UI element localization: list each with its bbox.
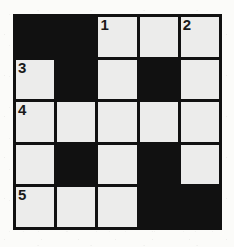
crossword-cell-open[interactable] <box>181 145 219 185</box>
cell-number: 2 <box>183 17 191 33</box>
crossword-cell-block <box>57 17 95 57</box>
crossword-cell-block <box>140 145 178 185</box>
crossword-cell-open[interactable] <box>57 187 95 227</box>
crossword-cell-open[interactable] <box>181 102 219 142</box>
crossword-cell-block <box>181 187 219 227</box>
crossword-cell-open[interactable]: 1 <box>98 17 136 57</box>
crossword-cell-block <box>57 145 95 185</box>
crossword-cell-block <box>16 17 54 57</box>
cell-number: 1 <box>100 17 108 33</box>
crossword-cell-open[interactable]: 4 <box>16 102 54 142</box>
crossword-cell-open[interactable]: 3 <box>16 60 54 100</box>
crossword-cell-open[interactable] <box>181 60 219 100</box>
crossword-cell-open[interactable] <box>98 102 136 142</box>
crossword-cell-open[interactable] <box>98 60 136 100</box>
crossword-cell-block <box>57 60 95 100</box>
crossword-cell-block <box>140 60 178 100</box>
crossword-cell-open[interactable] <box>140 17 178 57</box>
crossword-cell-open[interactable]: 5 <box>16 187 54 227</box>
crossword-cell-open[interactable] <box>140 102 178 142</box>
crossword-grid: 12345 <box>13 14 222 230</box>
crossword-cell-open[interactable] <box>57 102 95 142</box>
cell-number: 5 <box>18 187 26 203</box>
cell-number: 4 <box>18 102 26 118</box>
crossword-cell-open[interactable]: 2 <box>181 17 219 57</box>
crossword-cell-block <box>140 187 178 227</box>
crossword-cell-open[interactable] <box>98 187 136 227</box>
cell-number: 3 <box>18 60 26 76</box>
crossword-cell-open[interactable] <box>98 145 136 185</box>
crossword-cell-open[interactable] <box>16 145 54 185</box>
